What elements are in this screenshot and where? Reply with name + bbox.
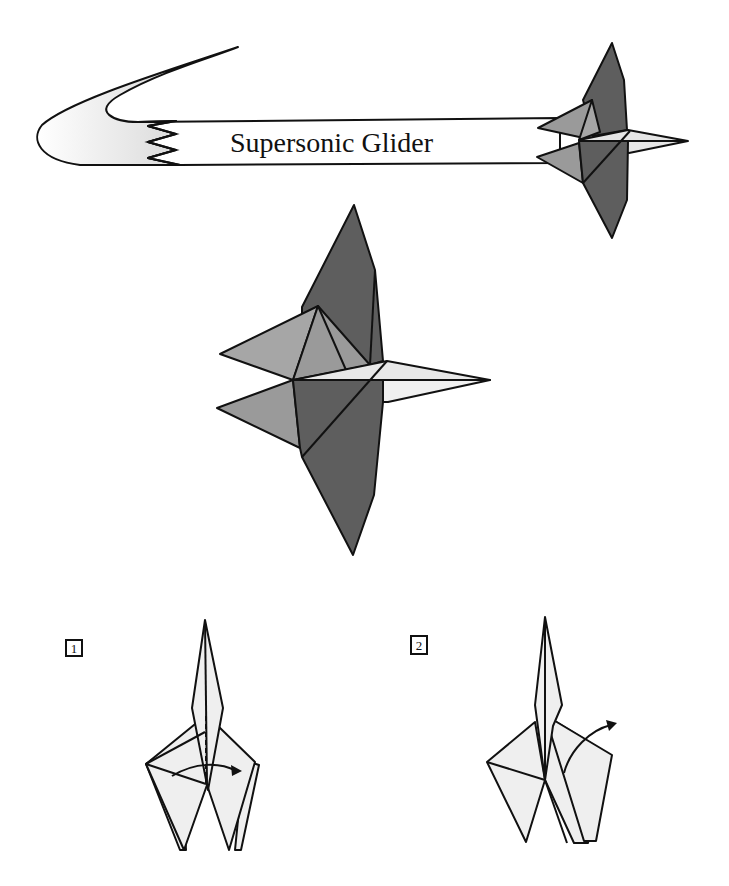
lower-wing [293,380,383,555]
step-2-number: 2 [416,638,423,653]
arrow-head [606,720,617,731]
origami-diagram: Supersonic Glider 1 [0,0,729,886]
step-1-number: 1 [71,641,78,656]
title-banner: Supersonic Glider [37,47,560,165]
main-glider [217,205,490,555]
step-1: 1 [66,620,259,850]
lower-left-flap [217,380,300,448]
banner-title: Supersonic Glider [230,127,434,158]
nose-lower [383,380,490,402]
step-2: 2 [411,617,617,843]
